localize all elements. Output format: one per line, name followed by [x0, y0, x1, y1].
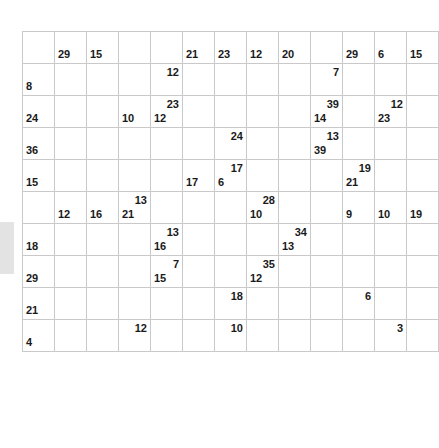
kakuro-open-cell-r6-c10[interactable]: [343, 224, 375, 256]
kakuro-open-cell-r1-c7[interactable]: [247, 64, 279, 96]
left-edge-artifact: [0, 222, 14, 274]
kakuro-open-cell-r8-c7[interactable]: [247, 288, 279, 320]
kakuro-open-cell-r8-c3[interactable]: [119, 288, 151, 320]
kakuro-open-cell-r8-c12[interactable]: [407, 288, 439, 320]
kakuro-open-cell-r9-c1[interactable]: [55, 320, 87, 352]
kakuro-open-cell-r1-c10[interactable]: [343, 64, 375, 96]
kakuro-open-cell-r6-c3[interactable]: [119, 224, 151, 256]
down-clue-value: 16: [90, 209, 102, 220]
kakuro-open-cell-r3-c7[interactable]: [247, 128, 279, 160]
kakuro-clue-cell-r2-c11: 1223: [375, 96, 407, 128]
kakuro-open-cell-r4-c11[interactable]: [375, 160, 407, 192]
down-clue-value: 14: [314, 113, 326, 124]
kakuro-open-cell-r6-c6[interactable]: [215, 224, 247, 256]
kakuro-grid[interactable]: 2915212312202961581272410231239141223362…: [22, 31, 439, 352]
kakuro-open-cell-r3-c12[interactable]: [407, 128, 439, 160]
kakuro-open-cell-r2-c1[interactable]: [55, 96, 87, 128]
kakuro-open-cell-r7-c2[interactable]: [87, 256, 119, 288]
kakuro-open-cell-r4-c3[interactable]: [119, 160, 151, 192]
kakuro-open-cell-r2-c8[interactable]: [279, 96, 311, 128]
kakuro-clue-cell-r4-c5: 17: [183, 160, 215, 192]
kakuro-open-cell-r9-c2[interactable]: [87, 320, 119, 352]
down-clue-value: 23: [218, 49, 230, 60]
kakuro-open-cell-r7-c3[interactable]: [119, 256, 151, 288]
kakuro-open-cell-r8-c9[interactable]: [311, 288, 343, 320]
kakuro-open-cell-r9-c8[interactable]: [279, 320, 311, 352]
kakuro-open-cell-r8-c2[interactable]: [87, 288, 119, 320]
kakuro-page: 2915212312202961581272410231239141223362…: [0, 0, 439, 448]
kakuro-open-cell-r4-c4[interactable]: [151, 160, 183, 192]
kakuro-open-cell-r8-c11[interactable]: [375, 288, 407, 320]
kakuro-open-cell-r1-c6[interactable]: [215, 64, 247, 96]
kakuro-open-cell-r1-c5[interactable]: [183, 64, 215, 96]
across-clue-value: 28: [263, 195, 275, 206]
kakuro-blank-cell-r0-c3: [119, 32, 151, 64]
kakuro-open-cell-r5-c5[interactable]: [183, 192, 215, 224]
kakuro-open-cell-r9-c12[interactable]: [407, 320, 439, 352]
kakuro-open-cell-r5-c6[interactable]: [215, 192, 247, 224]
kakuro-open-cell-r6-c5[interactable]: [183, 224, 215, 256]
kakuro-clue-cell-r9-c0: 4: [23, 320, 55, 352]
kakuro-open-cell-r6-c11[interactable]: [375, 224, 407, 256]
kakuro-clue-cell-r3-c6: 24: [215, 128, 247, 160]
down-clue-value: 12: [58, 209, 70, 220]
kakuro-open-cell-r3-c3[interactable]: [119, 128, 151, 160]
kakuro-open-cell-r3-c10[interactable]: [343, 128, 375, 160]
kakuro-open-cell-r7-c6[interactable]: [215, 256, 247, 288]
down-clue-value: 29: [58, 49, 70, 60]
kakuro-open-cell-r8-c1[interactable]: [55, 288, 87, 320]
kakuro-open-cell-r2-c7[interactable]: [247, 96, 279, 128]
kakuro-open-cell-r4-c1[interactable]: [55, 160, 87, 192]
kakuro-open-cell-r7-c9[interactable]: [311, 256, 343, 288]
kakuro-open-cell-r3-c5[interactable]: [183, 128, 215, 160]
kakuro-open-cell-r7-c8[interactable]: [279, 256, 311, 288]
kakuro-open-cell-r3-c8[interactable]: [279, 128, 311, 160]
down-clue-value: 19: [410, 209, 422, 220]
kakuro-open-cell-r9-c9[interactable]: [311, 320, 343, 352]
kakuro-open-cell-r8-c5[interactable]: [183, 288, 215, 320]
kakuro-blank-cell-r6-c7: [247, 224, 279, 256]
kakuro-open-cell-r8-c8[interactable]: [279, 288, 311, 320]
kakuro-clue-cell-r4-c6: 176: [215, 160, 247, 192]
kakuro-open-cell-r2-c10[interactable]: [343, 96, 375, 128]
kakuro-open-cell-r5-c4[interactable]: [151, 192, 183, 224]
kakuro-open-cell-r4-c2[interactable]: [87, 160, 119, 192]
kakuro-open-cell-r9-c7[interactable]: [247, 320, 279, 352]
kakuro-open-cell-r4-c8[interactable]: [279, 160, 311, 192]
kakuro-open-cell-r5-c9[interactable]: [311, 192, 343, 224]
down-clue-value: 15: [26, 177, 38, 188]
kakuro-open-cell-r2-c6[interactable]: [215, 96, 247, 128]
kakuro-open-cell-r1-c1[interactable]: [55, 64, 87, 96]
kakuro-open-cell-r4-c7[interactable]: [247, 160, 279, 192]
kakuro-open-cell-r7-c5[interactable]: [183, 256, 215, 288]
kakuro-open-cell-r3-c1[interactable]: [55, 128, 87, 160]
kakuro-open-cell-r6-c1[interactable]: [55, 224, 87, 256]
kakuro-open-cell-r1-c12[interactable]: [407, 64, 439, 96]
kakuro-open-cell-r9-c4[interactable]: [151, 320, 183, 352]
kakuro-open-cell-r2-c5[interactable]: [183, 96, 215, 128]
kakuro-open-cell-r3-c11[interactable]: [375, 128, 407, 160]
kakuro-open-cell-r5-c8[interactable]: [279, 192, 311, 224]
kakuro-open-cell-r8-c4[interactable]: [151, 288, 183, 320]
kakuro-open-cell-r2-c2[interactable]: [87, 96, 119, 128]
kakuro-open-cell-r7-c12[interactable]: [407, 256, 439, 288]
kakuro-open-cell-r6-c12[interactable]: [407, 224, 439, 256]
across-clue-value: 18: [231, 291, 243, 302]
kakuro-open-cell-r1-c11[interactable]: [375, 64, 407, 96]
kakuro-open-cell-r6-c2[interactable]: [87, 224, 119, 256]
kakuro-open-cell-r2-c12[interactable]: [407, 96, 439, 128]
kakuro-open-cell-r7-c10[interactable]: [343, 256, 375, 288]
kakuro-open-cell-r7-c11[interactable]: [375, 256, 407, 288]
down-clue-value: 6: [378, 49, 384, 60]
kakuro-open-cell-r1-c2[interactable]: [87, 64, 119, 96]
kakuro-open-cell-r1-c8[interactable]: [279, 64, 311, 96]
kakuro-open-cell-r6-c9[interactable]: [311, 224, 343, 256]
kakuro-open-cell-r7-c1[interactable]: [55, 256, 87, 288]
kakuro-open-cell-r4-c12[interactable]: [407, 160, 439, 192]
kakuro-open-cell-r9-c5[interactable]: [183, 320, 215, 352]
kakuro-clue-cell-r6-c4: 1316: [151, 224, 183, 256]
kakuro-clue-cell-r5-c1: 12: [55, 192, 87, 224]
kakuro-open-cell-r3-c4[interactable]: [151, 128, 183, 160]
kakuro-open-cell-r3-c2[interactable]: [87, 128, 119, 160]
kakuro-open-cell-r4-c9[interactable]: [311, 160, 343, 192]
